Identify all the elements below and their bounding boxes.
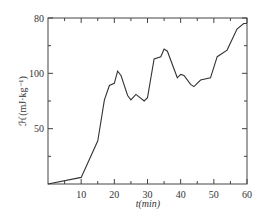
data-line bbox=[48, 24, 247, 185]
axis-ticks bbox=[48, 18, 247, 184]
plot-frame bbox=[48, 18, 247, 184]
chart-canvas: 1020304050605010080 t(min) ℋ(mJ·kg⁻¹) bbox=[0, 0, 264, 217]
x-tick-label: 60 bbox=[242, 189, 252, 200]
x-tick-label: 20 bbox=[109, 189, 119, 200]
x-tick-label: 50 bbox=[209, 189, 219, 200]
y-tick-label: 50 bbox=[34, 123, 44, 134]
x-tick-label: 40 bbox=[176, 189, 186, 200]
tick-labels: 1020304050605010080 bbox=[29, 13, 252, 201]
x-axis-title: t(min) bbox=[136, 198, 161, 210]
x-tick-label: 10 bbox=[76, 189, 86, 200]
y-tick-label: 80 bbox=[34, 13, 44, 24]
y-axis-title: ℋ(mJ·kg⁻¹) bbox=[17, 76, 29, 126]
y-tick-label: 100 bbox=[29, 68, 44, 79]
